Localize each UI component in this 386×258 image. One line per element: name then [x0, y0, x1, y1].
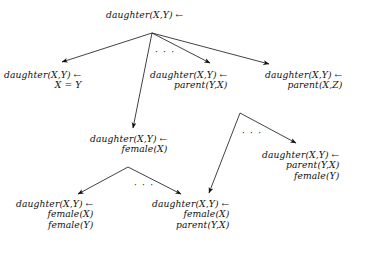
- ellipsis-female-x-children: · · ·: [134, 180, 154, 190]
- node-female-x-female-y: daughter(X,Y) ←female(X)female(Y): [16, 199, 93, 230]
- ellipsis-root-children: · · ·: [155, 47, 175, 57]
- node-root-line-1: daughter(X,Y) ←: [106, 10, 183, 20]
- node-x-equals-y-line-2: X = Y: [4, 80, 81, 90]
- node-female-x-female-y-line-3: female(Y): [16, 220, 93, 230]
- node-parent-x-z: daughter(X,Y) ←parent(X,Z): [265, 70, 342, 91]
- edge-root-to-x-equals-y: [62, 33, 152, 62]
- node-female-x-parent-y-x-line-3: parent(Y,X): [152, 220, 229, 230]
- node-parent-y-x-line-2: parent(Y,X): [150, 80, 227, 90]
- refinement-graph-figure: daughter(X,Y) ←daughter(X,Y) ←X = Ydaugh…: [0, 0, 386, 258]
- node-parent-y-x: daughter(X,Y) ←parent(Y,X): [150, 70, 227, 91]
- edge-parent-x-z-to-female-x-parent-y-x: [209, 113, 240, 193]
- node-root: daughter(X,Y) ←: [106, 10, 183, 20]
- node-parent-x-z-line-2: parent(X,Z): [265, 80, 342, 90]
- edge-female-x-to-female-x-female-y: [78, 167, 128, 194]
- ellipsis-parent-x-z-children: · · ·: [242, 128, 262, 138]
- node-x-equals-y: daughter(X,Y) ←X = Y: [4, 70, 81, 91]
- node-parent-y-x-female-y-line-3: female(Y): [262, 171, 339, 181]
- node-female-x: daughter(X,Y) ←female(X): [90, 134, 167, 155]
- node-parent-y-x-female-y: daughter(X,Y) ←parent(Y,X)female(Y): [262, 150, 339, 181]
- node-female-x-parent-y-x: daughter(X,Y) ←female(X)parent(Y,X): [152, 199, 229, 230]
- node-female-x-line-2: female(X): [90, 144, 167, 154]
